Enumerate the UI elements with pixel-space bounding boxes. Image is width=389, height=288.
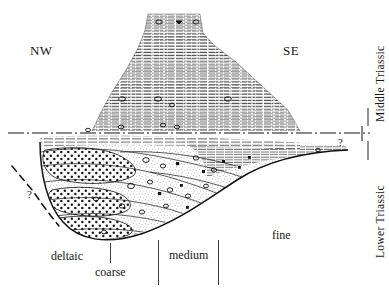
tick-medium-right <box>218 240 219 285</box>
grain-label-deltaic: deltaic <box>51 249 83 264</box>
stratigraphic-label-middle-triassic: Middle Triassic <box>374 46 386 122</box>
uncertainty-mark-left: ? <box>27 188 32 200</box>
grain-label-coarse: coarse <box>95 265 126 280</box>
stratigraphic-label-lower-triassic: Lower Triassic <box>374 185 386 258</box>
direction-label-se: SE <box>283 43 299 59</box>
grain-label-fine: fine <box>272 228 291 243</box>
lower-clastic-wedge <box>12 130 360 252</box>
grain-label-medium: medium <box>169 248 208 263</box>
cross-section-figure: NW SE fine deltaic coarse medium Middle … <box>0 0 389 288</box>
upper-stratified-unit <box>85 10 310 135</box>
direction-label-nw: NW <box>30 43 52 59</box>
tick-coarse <box>110 243 111 263</box>
tick-medium-left <box>158 240 159 285</box>
uncertainty-mark-right: ? <box>338 136 343 148</box>
cross-section-drawing <box>0 0 389 288</box>
